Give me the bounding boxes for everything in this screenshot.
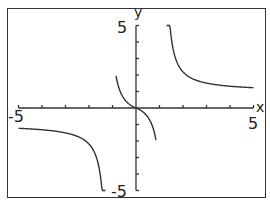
y-max-label: 5 [117,20,127,36]
y-min-label: -5 [111,184,127,200]
x-max-label: 5 [248,116,258,132]
curve-left-branch [19,128,106,190]
curve-right-branch [167,26,254,88]
y-axis-label: y [134,5,142,19]
plot-area [0,0,270,204]
x-min-label: -5 [8,109,24,125]
x-axis-label: x [256,100,264,114]
